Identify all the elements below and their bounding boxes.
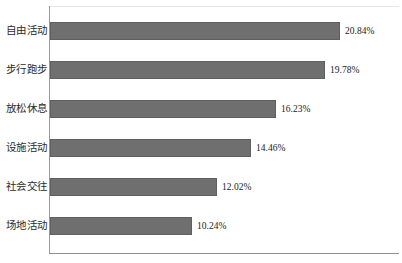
- x-axis-line: [49, 253, 399, 254]
- value-label-3: 14.46%: [256, 139, 285, 157]
- plot-area: 自由活动 20.84% 步行跑步 19.78% 放松休息 16.23% 设施活动…: [0, 0, 402, 263]
- category-label-0: 自由活动: [6, 22, 47, 40]
- category-label-4: 社会交往: [6, 178, 47, 196]
- value-label-2: 16.23%: [281, 100, 310, 118]
- bar-4[interactable]: [50, 178, 217, 196]
- value-label-5: 10.24%: [197, 217, 226, 235]
- value-label-4: 12.02%: [222, 178, 251, 196]
- y-axis-line: [49, 6, 50, 254]
- table-row: 放松休息 16.23%: [0, 100, 402, 118]
- bar-5[interactable]: [50, 217, 192, 235]
- table-row: 步行跑步 19.78%: [0, 61, 402, 79]
- bar-1[interactable]: [50, 61, 325, 79]
- bar-chart: 自由活动 20.84% 步行跑步 19.78% 放松休息 16.23% 设施活动…: [0, 0, 402, 263]
- category-label-3: 设施活动: [6, 139, 47, 157]
- category-label-5: 场地活动: [6, 217, 47, 235]
- bar-3[interactable]: [50, 139, 251, 157]
- category-label-1: 步行跑步: [6, 61, 47, 79]
- value-label-1: 19.78%: [330, 61, 359, 79]
- table-row: 场地活动 10.24%: [0, 217, 402, 235]
- table-row: 自由活动 20.84%: [0, 22, 402, 40]
- bar-0[interactable]: [50, 22, 340, 40]
- value-label-0: 20.84%: [345, 22, 374, 40]
- table-row: 社会交往 12.02%: [0, 178, 402, 196]
- bar-2[interactable]: [50, 100, 276, 118]
- table-row: 设施活动 14.46%: [0, 139, 402, 157]
- category-label-2: 放松休息: [6, 100, 47, 118]
